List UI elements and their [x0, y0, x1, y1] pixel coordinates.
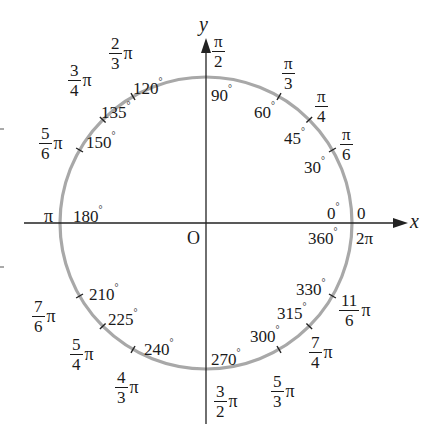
y-axis-arrow-icon — [201, 38, 211, 53]
radian-label-7pi-4: 74π — [309, 334, 333, 371]
radian-label-5pi-3: 53π — [271, 373, 295, 410]
degree-label-300: 300° — [250, 328, 280, 345]
radian-label-pi-2: π2 — [212, 33, 225, 70]
radian-label-3pi-4: 34π — [68, 62, 92, 99]
degree-label-330: 330° — [296, 281, 326, 298]
radian-label-2pi-3: 23π — [109, 35, 133, 72]
radian-label-pi-3: π3 — [282, 55, 295, 92]
unit-circle-diagram: y x O 90° 60° 45° 30° 0° 360° 120° 135° … — [0, 0, 432, 439]
degree-label-210: 210° — [89, 286, 119, 303]
radian-label-pi-4: π4 — [315, 88, 328, 125]
degree-label-60: 60° — [254, 104, 275, 121]
degree-label-135: 135° — [101, 104, 131, 121]
x-axis-arrow-icon — [393, 218, 408, 228]
degree-label-240: 240° — [144, 341, 174, 358]
radian-label-0: 0 — [357, 205, 366, 222]
radian-label-pi-6: π6 — [340, 126, 353, 163]
origin-label: O — [187, 229, 200, 247]
radian-label-11pi-6: 116π — [339, 292, 370, 329]
degree-label-30: 30° — [304, 159, 325, 176]
radian-label-3pi-2: 32π — [214, 383, 238, 420]
degree-label-45: 45° — [284, 130, 305, 147]
radian-label-pi: π — [44, 207, 53, 225]
radian-label-5pi-6: 56π — [39, 125, 63, 162]
degree-label-0: 0° — [327, 205, 340, 222]
degree-label-270: 270° — [211, 351, 241, 368]
x-axis-label: x — [410, 211, 419, 231]
radian-label-7pi-6: 76π — [32, 298, 56, 335]
degree-label-225: 225° — [108, 311, 138, 328]
degree-label-360: 360° — [308, 230, 338, 247]
degree-label-150: 150° — [86, 134, 116, 151]
radian-label-5pi-4: 54π — [70, 336, 94, 373]
y-axis-label: y — [199, 14, 208, 34]
degree-label-180: 180° — [73, 208, 103, 225]
degree-label-315: 315° — [277, 305, 307, 322]
degree-label-90: 90° — [211, 87, 232, 104]
degree-label-120: 120° — [133, 80, 163, 97]
radian-label-2pi: 2π — [356, 230, 373, 247]
radian-label-4pi-3: 43π — [115, 369, 139, 406]
